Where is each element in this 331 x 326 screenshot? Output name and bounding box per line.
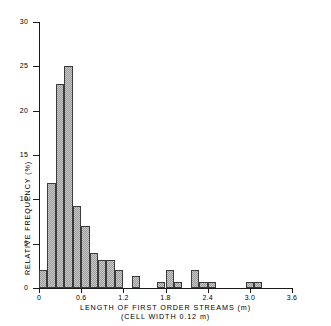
y-tick-label: 30 — [0, 18, 28, 25]
histogram-bar — [191, 270, 199, 288]
x-axis-title: LENGTH OF FIRST ORDER STREAMS (m) — [0, 303, 331, 312]
histogram-bar — [90, 253, 98, 288]
x-tick-mark — [208, 288, 209, 293]
histogram-bar — [115, 270, 123, 288]
histogram-bar — [199, 282, 207, 288]
x-tick-label: 0.6 — [66, 294, 96, 302]
x-tick-label: 1.2 — [108, 294, 138, 302]
histogram-bar — [47, 183, 55, 288]
x-tick-label: 0 — [24, 294, 54, 302]
y-tick-label: 25 — [0, 62, 28, 69]
y-axis-title-wrap: RELATIVE FREQUENCY (%) — [14, 90, 26, 220]
histogram-bar — [39, 270, 47, 288]
histogram-bar — [132, 276, 140, 288]
histogram-bar — [81, 226, 89, 288]
histogram-bar — [254, 282, 262, 288]
histogram-bar — [174, 282, 182, 288]
y-axis-title: RELATIVE FREQUENCY (%) — [24, 148, 32, 288]
histogram-figure: 051015202530 00.61.21.82.43.03.6 RELATIV… — [0, 0, 331, 326]
histogram-bar — [246, 282, 254, 288]
x-axis-subtitle: (CELL WIDTH 0.12 m) — [0, 312, 331, 321]
histogram-bar — [98, 260, 106, 288]
histogram-bar — [208, 282, 216, 288]
x-tick-mark — [250, 288, 251, 293]
x-tick-label: 1.8 — [151, 294, 181, 302]
x-tick-mark — [81, 288, 82, 293]
x-tick-label: 3.0 — [235, 294, 265, 302]
histogram-bar — [73, 206, 81, 288]
x-tick-mark — [123, 288, 124, 293]
histogram-bar — [157, 282, 165, 288]
x-tick-label: 2.4 — [193, 294, 223, 302]
x-tick-mark — [166, 288, 167, 293]
histogram-bar — [56, 84, 64, 288]
x-tick-label: 3.6 — [277, 294, 307, 302]
x-tick-mark — [39, 288, 40, 293]
histogram-bars — [39, 22, 292, 288]
x-tick-mark — [292, 288, 293, 293]
histogram-bar — [106, 260, 114, 288]
histogram-bar — [64, 66, 72, 288]
histogram-bar — [166, 270, 174, 288]
